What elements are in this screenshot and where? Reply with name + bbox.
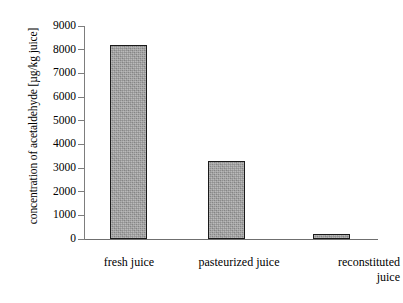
y-axis-tick-label: 8000 [16,44,76,56]
y-axis-tick [78,215,85,216]
y-axis-tick [78,239,85,240]
bar-0 [110,45,147,239]
y-axis-tick [78,191,85,192]
y-axis-tick [78,73,85,74]
x-axis-category-label: reconstituted juice [288,255,403,285]
x-axis-line [84,239,378,240]
y-axis-tick-label: 7000 [16,67,76,79]
y-axis-tick-label: 1000 [16,209,76,221]
bar-2 [313,234,350,239]
y-axis-tick-label: 3000 [16,162,76,174]
y-axis-tick-label: 5000 [16,115,76,127]
y-axis-tick-label: 6000 [16,91,76,103]
y-axis-line [84,26,85,240]
y-axis-tick [78,144,85,145]
y-axis-tick [78,49,85,50]
y-axis-tick-label: 4000 [16,138,76,150]
y-axis-tick [78,120,85,121]
bar-chart-figure: concentration of acetaldehyde [µg/kg jui… [0,0,403,303]
x-axis-category-label: fresh juice [72,255,186,270]
y-axis-tick-label: 9000 [16,20,76,32]
y-axis-tick [78,97,85,98]
y-axis-tick [78,26,85,27]
y-axis-tick-label: 0 [16,233,76,245]
y-axis-tick-label: 2000 [16,186,76,198]
bar-1 [208,161,245,239]
y-axis-tick [78,168,85,169]
x-axis-category-label: pasteurized juice [174,255,304,270]
